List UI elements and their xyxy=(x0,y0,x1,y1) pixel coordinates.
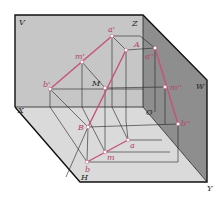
label-Y: Y xyxy=(207,184,213,193)
label-O: O xyxy=(146,108,153,117)
label-b2: b'' xyxy=(181,119,191,128)
label-A: A xyxy=(133,40,140,49)
label-m1: m' xyxy=(75,52,85,61)
point-M xyxy=(103,86,107,90)
label-H: H xyxy=(80,173,89,182)
label-b: b xyxy=(85,165,90,174)
projection-diagram: V Z W X O H Y a' m' b' A M B a'' m'' b''… xyxy=(0,0,224,203)
point-b2 xyxy=(176,122,180,126)
point-a2 xyxy=(153,46,157,50)
v-plane xyxy=(15,15,143,107)
label-W: W xyxy=(196,82,205,91)
label-b1: b' xyxy=(43,80,50,89)
label-Z: Z xyxy=(131,19,138,28)
label-M: M xyxy=(91,79,101,88)
label-m2: m'' xyxy=(170,83,182,92)
label-B: B xyxy=(77,123,84,132)
point-b xyxy=(85,160,89,164)
label-X: X xyxy=(17,106,24,115)
point-B xyxy=(86,125,90,129)
point-m2 xyxy=(163,85,167,89)
label-m: m xyxy=(107,153,115,162)
point-a1 xyxy=(110,34,114,38)
label-a: a xyxy=(130,141,135,150)
point-A xyxy=(124,48,128,52)
label-a1: a' xyxy=(108,25,115,34)
label-a2: a'' xyxy=(145,52,154,61)
